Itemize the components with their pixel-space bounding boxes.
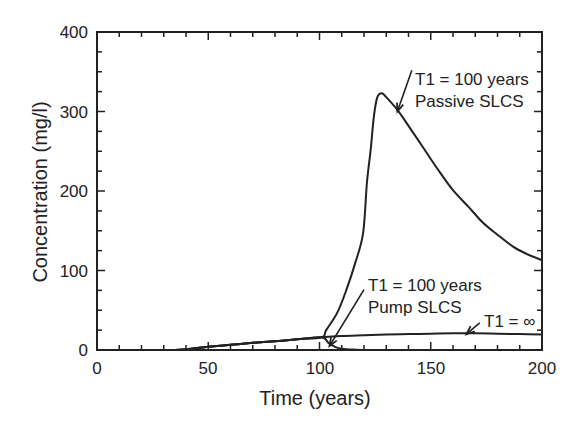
annotation-passive: T1 = 100 years Passive SLCS: [415, 70, 529, 111]
series-passive-slcs: [97, 93, 542, 350]
annotation-infinite: T1 = ∞: [484, 312, 535, 331]
y-tick-200: 200: [60, 182, 88, 201]
y-axis-label: Concentration (mg/l): [29, 101, 51, 282]
annotation-pump-line1: T1 = 100 years: [368, 276, 482, 295]
x-tick-50: 50: [199, 359, 218, 378]
annotation-infinite-label: T1 = ∞: [484, 312, 535, 331]
x-axis-label: Time (years): [259, 387, 370, 409]
y-tick-300: 300: [60, 103, 88, 122]
annotation-pump: T1 = 100 years Pump SLCS: [368, 276, 482, 317]
annotation-passive-line2: Passive SLCS: [415, 92, 524, 111]
chart: 0 50 100 150 200 0 100 200 300 400 Time …: [0, 0, 581, 437]
x-tick-150: 150: [417, 359, 445, 378]
x-tick-100: 100: [306, 359, 334, 378]
annotation-passive-line1: T1 = 100 years: [415, 70, 529, 89]
y-tick-0: 0: [79, 341, 88, 360]
annotation-pump-line2: Pump SLCS: [368, 298, 462, 317]
arrow-passive: [397, 70, 412, 111]
series-layer: [97, 93, 542, 350]
x-tick-200: 200: [528, 359, 556, 378]
x-tick-0: 0: [92, 359, 101, 378]
y-tick-100: 100: [60, 262, 88, 281]
y-tick-400: 400: [60, 23, 88, 42]
